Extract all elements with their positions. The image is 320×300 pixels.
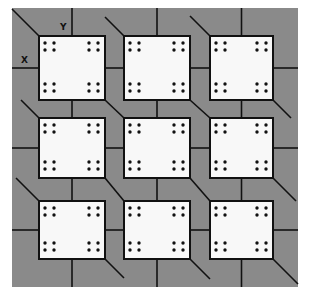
- contact-dot: [264, 48, 267, 51]
- contact-dot: [96, 167, 99, 170]
- contact-dot: [96, 41, 99, 44]
- contact-dot: [264, 160, 267, 163]
- cell-cell-1-1: [39, 36, 105, 100]
- contact-dot: [223, 206, 226, 209]
- contact-dot: [214, 123, 217, 126]
- contact-dot: [223, 213, 226, 216]
- contact-dot: [96, 213, 99, 216]
- contact-dot: [264, 123, 267, 126]
- contact-dot: [43, 89, 46, 92]
- contact-dot: [181, 206, 184, 209]
- contact-dot: [181, 48, 184, 51]
- contact-dot: [172, 213, 175, 216]
- contact-dot: [87, 82, 90, 85]
- contact-dot: [96, 89, 99, 92]
- contact-dot: [52, 167, 55, 170]
- contact-dot: [181, 160, 184, 163]
- contact-dot: [255, 130, 258, 133]
- cell-cell-1-2: [124, 36, 190, 100]
- contact-dot: [264, 89, 267, 92]
- contact-dot: [128, 248, 131, 251]
- contact-dot: [43, 167, 46, 170]
- contact-dot: [43, 82, 46, 85]
- contact-dot: [52, 130, 55, 133]
- contact-dot: [264, 167, 267, 170]
- contact-dot: [137, 48, 140, 51]
- contact-dot: [264, 248, 267, 251]
- contact-dot: [87, 167, 90, 170]
- contact-dot: [52, 241, 55, 244]
- contact-dot: [214, 89, 217, 92]
- cell-cell-2-1: [39, 118, 105, 178]
- contact-dot: [264, 206, 267, 209]
- contact-dot: [181, 241, 184, 244]
- contact-dot: [255, 167, 258, 170]
- contact-dot: [255, 123, 258, 126]
- contact-dot: [223, 48, 226, 51]
- contact-dot: [96, 248, 99, 251]
- contact-dot: [255, 160, 258, 163]
- contact-dot: [43, 41, 46, 44]
- contact-dot: [43, 48, 46, 51]
- contact-dot: [87, 248, 90, 251]
- contact-dot: [128, 82, 131, 85]
- contact-dot: [52, 82, 55, 85]
- contact-dot: [214, 213, 217, 216]
- contact-dot: [181, 123, 184, 126]
- contact-dot: [96, 130, 99, 133]
- contact-dot: [214, 167, 217, 170]
- contact-dot: [255, 82, 258, 85]
- contact-dot: [172, 48, 175, 51]
- contact-dot: [181, 167, 184, 170]
- contact-dot: [87, 130, 90, 133]
- contact-dot: [96, 82, 99, 85]
- contact-dot: [52, 248, 55, 251]
- contact-dot: [172, 82, 175, 85]
- contact-dot: [128, 241, 131, 244]
- contact-dot: [264, 213, 267, 216]
- contact-dot: [137, 123, 140, 126]
- cell-cell-3-2: [124, 201, 190, 259]
- cell-grid: [39, 36, 273, 259]
- contact-dot: [128, 89, 131, 92]
- contact-dot: [223, 130, 226, 133]
- contact-dot: [137, 89, 140, 92]
- contact-dot: [255, 248, 258, 251]
- contact-dot: [172, 130, 175, 133]
- contact-dot: [214, 206, 217, 209]
- contact-dot: [52, 123, 55, 126]
- contact-dot: [181, 213, 184, 216]
- contact-dot: [172, 167, 175, 170]
- contact-dot: [43, 160, 46, 163]
- contact-dot: [137, 241, 140, 244]
- contact-dot: [255, 213, 258, 216]
- contact-dot: [255, 41, 258, 44]
- contact-dot: [52, 206, 55, 209]
- contact-dot: [52, 48, 55, 51]
- cell-cell-2-3: [210, 118, 273, 178]
- contact-dot: [96, 241, 99, 244]
- contact-dot: [128, 130, 131, 133]
- contact-dot: [181, 89, 184, 92]
- contact-dot: [43, 248, 46, 251]
- contact-dot: [137, 206, 140, 209]
- contact-dot: [87, 89, 90, 92]
- contact-dot: [128, 206, 131, 209]
- contact-dot: [96, 206, 99, 209]
- contact-dot: [137, 248, 140, 251]
- contact-dot: [87, 213, 90, 216]
- y-axis-label: Y: [60, 22, 67, 32]
- contact-dot: [137, 160, 140, 163]
- contact-dot: [52, 41, 55, 44]
- contact-dot: [128, 160, 131, 163]
- contact-dot: [172, 241, 175, 244]
- contact-dot: [255, 241, 258, 244]
- contact-dot: [137, 41, 140, 44]
- contact-dot: [223, 89, 226, 92]
- contact-dot: [214, 130, 217, 133]
- contact-dot: [43, 213, 46, 216]
- contact-dot: [223, 41, 226, 44]
- contact-dot: [172, 89, 175, 92]
- contact-dot: [172, 123, 175, 126]
- contact-dot: [264, 241, 267, 244]
